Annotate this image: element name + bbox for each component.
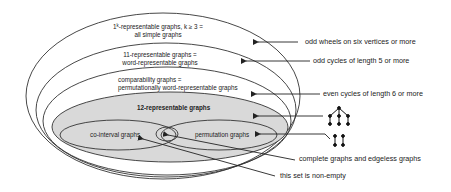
label-word-representable: 11-representable graphs = word-represent… (110, 51, 210, 66)
label-co-interval: co-interval graphs (90, 131, 140, 139)
label-text: 11-representable graphs = (123, 51, 197, 58)
annotation-odd-wheels: odd wheels on six vertices or more (305, 38, 416, 46)
label-text: -representable graphs, k ≥ 3 = (119, 23, 203, 30)
annotation-even-cycles: even cycles of length 6 or more (323, 90, 423, 98)
label-comparability: comparability graphs = permutationally w… (118, 76, 238, 91)
annotation-complete-edgeless: complete graphs and edgeless graphs (299, 155, 421, 163)
label-text: word-representable graphs (122, 59, 197, 66)
label-text: permutationally word-representable graph… (118, 84, 238, 91)
annotation-non-empty: this set is non-empty (280, 172, 346, 180)
two-disjoint-edges-icon (334, 135, 345, 147)
label-12-representable: 12-representable graphs (137, 104, 210, 112)
tree-graph-icon (329, 107, 350, 126)
label-text: comparability graphs = (118, 76, 182, 83)
label-all-simple-graphs: 1k-representable graphs, k ≥ 3 = all sim… (108, 22, 208, 38)
annotation-odd-cycles: odd cycles of length 5 or more (313, 57, 409, 65)
label-text: all simple graphs (134, 31, 181, 38)
label-permutation: permutation graphs (195, 131, 249, 139)
